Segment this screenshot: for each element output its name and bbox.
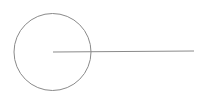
diagram-canvas <box>0 0 208 96</box>
radius-line <box>53 51 194 52</box>
